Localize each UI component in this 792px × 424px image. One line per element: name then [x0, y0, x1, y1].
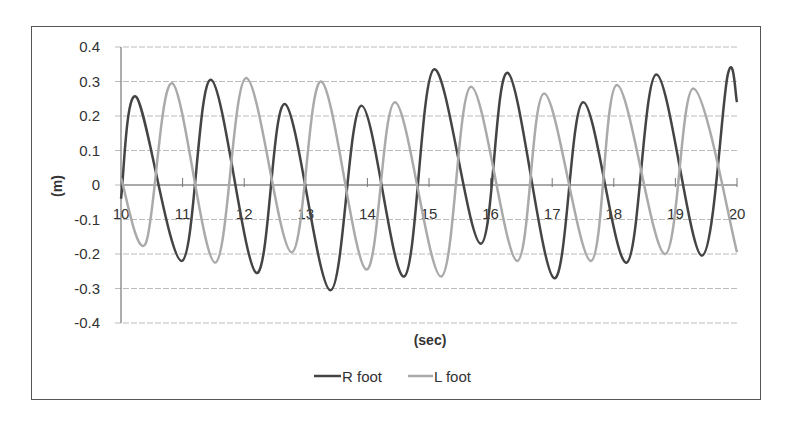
y-tick-label: -0.1 [74, 211, 100, 228]
x-tick-label: 10 [113, 205, 130, 222]
legend-item-r-foot: R foot [314, 368, 383, 385]
x-tick-label: 11 [175, 205, 191, 222]
x-tick-label: 14 [359, 205, 376, 222]
x-tick-label: 18 [605, 205, 622, 222]
y-tick-label: 0.3 [79, 73, 100, 90]
x-tick-label: 17 [544, 205, 561, 222]
x-axis-title: (sec) [414, 332, 447, 348]
legend-label-l-foot: L foot [434, 368, 472, 385]
y-axis-title: (m) [49, 175, 65, 197]
y-tick-label: 0.2 [79, 107, 100, 124]
legend-item-l-foot: L foot [408, 368, 472, 385]
y-tick-label: -0.3 [74, 280, 100, 297]
y-tick-label: 0.1 [79, 142, 100, 159]
y-axis-tick-labels: 0.40.30.20.10-0.1-0.2-0.3-0.4 [74, 38, 100, 331]
y-tick-label: 0 [92, 176, 100, 193]
legend-label-r-foot: R foot [342, 368, 383, 385]
y-tick-label: -0.4 [74, 314, 100, 331]
legend: R foot L foot [314, 368, 472, 385]
x-tick-label: 20 [729, 205, 746, 222]
line-chart: 0.40.30.20.10-0.1-0.2-0.3-0.4 1011121314… [0, 0, 792, 424]
series-line-l-foot [121, 78, 737, 276]
y-tick-label: -0.2 [74, 245, 100, 262]
y-tick-label: 0.4 [79, 38, 100, 55]
